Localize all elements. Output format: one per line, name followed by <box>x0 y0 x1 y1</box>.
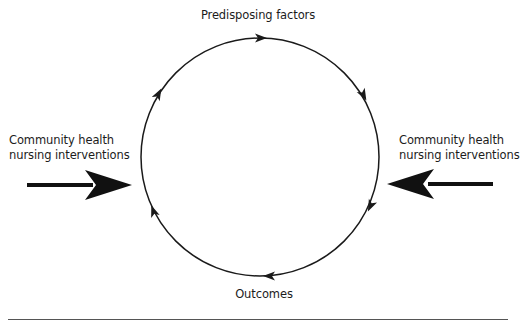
node-predisposing-factors: Predisposing factors <box>0 8 516 23</box>
node-outcomes: Outcomes <box>0 287 516 302</box>
cycle-arrow-lower-left-icon <box>147 204 160 218</box>
left-input-label: Community health nursing interventions <box>9 133 130 163</box>
left-input-arrow-icon <box>27 170 132 200</box>
right-input-label-line1: Community health <box>399 133 520 148</box>
cycle-circle <box>141 38 379 276</box>
left-input-label-line2: nursing interventions <box>9 148 130 163</box>
right-input-arrow-icon <box>387 169 493 199</box>
right-input-label: Community health nursing interventions <box>399 133 520 163</box>
right-input-label-line2: nursing interventions <box>399 148 520 163</box>
left-input-label-line1: Community health <box>9 133 130 148</box>
bottom-divider <box>8 319 508 320</box>
